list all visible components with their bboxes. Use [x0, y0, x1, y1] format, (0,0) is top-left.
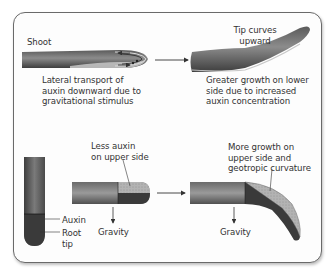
label-gravity-1: Gravity: [98, 227, 129, 238]
label-less-auxin: Less auxin on upper side: [91, 141, 149, 162]
label-tip-curves-upward: Tip curves upward: [225, 25, 285, 46]
label-gravity-2: Gravity: [220, 227, 251, 238]
root-horizontal: [72, 160, 150, 223]
caption-lateral-transport: Lateral transport of auxin downward due …: [42, 75, 141, 107]
label-auxin: Auxin: [62, 215, 86, 226]
caption-greater-growth: Greater growth on lower side due to incr…: [206, 75, 309, 107]
label-more-growth: More growth on upper side and geotropic …: [228, 142, 311, 174]
label-root-tip: Root tip: [62, 228, 81, 249]
shoot-horizontal: [22, 50, 148, 68]
root-vertical: [24, 157, 60, 246]
label-shoot: Shoot: [27, 37, 51, 48]
